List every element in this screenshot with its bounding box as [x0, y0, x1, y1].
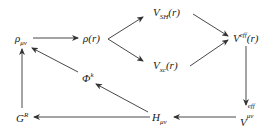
arrow-v-sh-to-v-eff [193, 14, 228, 36]
node-v-eff-r: Veff(r) [233, 33, 258, 44]
v-sh-base: V [153, 6, 160, 18]
arrows-layer [0, 0, 271, 130]
dft-cycle-diagram: ρμν ρ(r) VSH(r) Vxc(r) Veff(r) Veffμν Hμ… [0, 0, 271, 130]
v-xc-base: V [153, 59, 160, 71]
v-eff-munu-sub: μν [247, 113, 254, 120]
v-eff-r-sup: eff [240, 31, 247, 39]
node-rho-r: ρ(r) [83, 33, 100, 44]
node-g-r: GR [16, 113, 28, 124]
v-eff-munu-scripts: effμν [247, 112, 261, 126]
v-eff-r-base: V [233, 32, 240, 44]
arrow-h-munu-to-phi-k [96, 84, 148, 112]
node-v-eff-munu: Veffμν [240, 112, 261, 128]
arrow-rho-r-to-v-xc [108, 39, 143, 61]
g-r-sup: R [24, 111, 28, 119]
v-eff-munu-base: V [240, 116, 247, 128]
arrow-rho-r-to-v-sh [108, 17, 143, 39]
node-v-sh: VSH(r) [153, 7, 180, 18]
v-sh-arg: (r) [168, 6, 180, 18]
rho-r-label: ρ(r) [83, 32, 100, 44]
v-eff-r-arg: (r) [247, 32, 259, 44]
node-h-munu: Hμν [152, 112, 167, 123]
node-phi-k: Φk [82, 73, 93, 84]
rho-munu-sub: μν [20, 39, 27, 47]
v-sh-sub: SH [160, 13, 169, 21]
phi-k-sup: k [90, 71, 93, 79]
arrow-v-xc-to-v-eff [190, 40, 228, 66]
arrow-phi-k-to-rho-munu [32, 48, 78, 72]
node-v-xc: Vxc(r) [153, 60, 178, 71]
g-r-base: G [16, 112, 24, 124]
h-munu-base: H [152, 111, 160, 123]
v-xc-arg: (r) [166, 59, 178, 71]
h-munu-sub: μν [160, 118, 167, 126]
node-rho-munu: ρμν [15, 33, 27, 44]
v-eff-munu-sup: eff [248, 103, 255, 110]
